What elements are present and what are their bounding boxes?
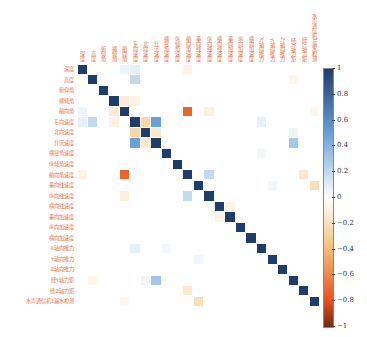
- colorbar-tick: [332, 68, 335, 69]
- column-label: X轴向推力: [256, 37, 267, 61]
- colorbar-tick: [332, 300, 335, 301]
- heatmap-cell: [120, 96, 129, 105]
- heatmap-cell: [225, 212, 234, 221]
- row-label: 横摇角速度: [49, 148, 74, 159]
- heatmap-cell: [120, 107, 129, 116]
- heatmap-cell: [246, 233, 255, 242]
- heatmap-cell: [236, 223, 245, 232]
- heatmap-cell: [120, 191, 129, 200]
- column-label: 俯仰角: [98, 46, 109, 61]
- column-label: 艏向角速度: [183, 36, 194, 61]
- colorbar: [323, 68, 334, 328]
- heatmap-cell: [289, 75, 298, 84]
- column-label: Y轴向推力: [267, 38, 278, 61]
- column-label: 横向加速度: [246, 36, 257, 61]
- heatmap-cell: [278, 265, 287, 274]
- heatmap-cell: [151, 128, 160, 137]
- column-label: 横倾角: [109, 46, 120, 61]
- colorbar-tick: [332, 197, 335, 198]
- row-label: 艏向角: [59, 106, 74, 117]
- row-label: 北向速度: [54, 127, 74, 138]
- column-label: 高度: [88, 51, 99, 61]
- row-label: 东向速度: [54, 117, 74, 128]
- heatmap-cell: [268, 181, 277, 190]
- heatmap-cell: [173, 160, 182, 169]
- colorbar-tick-label: 0.6: [337, 116, 348, 124]
- heatmap-cell: [130, 75, 139, 84]
- colorbar-tick-label: 1: [337, 64, 341, 72]
- heatmap-cell: [141, 117, 150, 126]
- column-label: 纵向加速度: [235, 36, 246, 61]
- column-label: 垂向线速度: [193, 36, 204, 61]
- heatmap-cell: [204, 107, 213, 116]
- row-label: 横倾角: [59, 96, 74, 107]
- heatmap-cell: [268, 255, 277, 264]
- heatmap-cell: [257, 117, 266, 126]
- heatmap-cell: [183, 107, 192, 116]
- column-label: 垂向加速度: [225, 36, 236, 61]
- colorbar-tick: [332, 326, 335, 327]
- heatmap-cell: [151, 117, 160, 126]
- heatmap-cell: [215, 212, 224, 221]
- column-label: 纵向线速度: [204, 36, 215, 61]
- row-label: 纵倾角速度: [49, 159, 74, 170]
- column-label: Z轴向推力: [277, 37, 288, 61]
- heatmap-cell: [78, 117, 87, 126]
- heatmap-cell: [183, 286, 192, 295]
- colorbar-tick-label: 0: [337, 193, 341, 201]
- column-label: 横摇角速度: [161, 36, 172, 61]
- row-label: 纵向加速度: [49, 222, 74, 233]
- row-label: 艏向角速度: [49, 170, 74, 181]
- heatmap-cell: [162, 149, 171, 158]
- heatmap-cell: [299, 170, 308, 179]
- row-label: 垂向加速度: [49, 212, 74, 223]
- heatmap-cell: [204, 191, 213, 200]
- heatmap-cell: [120, 170, 129, 179]
- heatmap-cell: [194, 297, 203, 306]
- heatmap-cell: [109, 117, 118, 126]
- colorbar-tick-label: −1: [337, 322, 347, 330]
- heatmap-cell: [310, 297, 319, 306]
- heatmap-cell: [88, 75, 97, 84]
- heatmap-cell: [215, 202, 224, 211]
- heatmap-cell: [162, 244, 171, 253]
- colorbar-tick: [332, 120, 335, 121]
- column-label: 东向速度: [130, 41, 141, 61]
- column-label: 深度: [77, 51, 88, 61]
- heatmap-cell: [130, 244, 139, 253]
- colorbar-tick-label: −0.2: [337, 219, 354, 227]
- heatmap-cell: [141, 276, 150, 285]
- column-label: 绕Y轴力矩: [288, 38, 299, 61]
- column-label: 纵倾角速度: [172, 36, 183, 61]
- colorbar-tick: [332, 274, 335, 275]
- colorbar-tick-label: 0.4: [337, 141, 348, 149]
- heatmap-cell: [99, 86, 108, 95]
- colorbar-tick: [332, 94, 335, 95]
- correlation-heatmap: 深度高度俯仰角横倾角艏向角东向速度北向速度升沉速度横摇角速度纵倾角速度艏向角速度…: [0, 0, 367, 337]
- heatmap-cell: [289, 128, 298, 137]
- heatmap-cell: [204, 170, 213, 179]
- heatmap-cell: [289, 276, 298, 285]
- row-label: 垂向线速度: [49, 180, 74, 191]
- heatmap-cell: [225, 202, 234, 211]
- row-label: 俯仰角: [59, 85, 74, 96]
- row-label: 绕Z轴力矩: [50, 286, 74, 297]
- column-label: 横向线速度: [214, 36, 225, 61]
- heatmap-cell: [88, 276, 97, 285]
- row-label: 深度: [64, 64, 74, 75]
- heatmap-cell: [78, 65, 87, 74]
- row-label: 升沉速度: [54, 138, 74, 149]
- row-label: Y轴向推力: [51, 254, 74, 265]
- column-label: 水声通信机1漏水检测: [309, 13, 320, 61]
- colorbar-tick-label: −0.8: [337, 296, 354, 304]
- heatmap-cell: [130, 138, 139, 147]
- colorbar-tick: [332, 171, 335, 172]
- column-label: 升沉速度: [151, 41, 162, 61]
- colorbar-tick: [332, 145, 335, 146]
- heatmap-cell: [257, 244, 266, 253]
- heatmap-cell: [88, 117, 97, 126]
- row-label: Z轴向推力: [50, 264, 74, 275]
- heatmap-cell: [151, 276, 160, 285]
- heatmap-cell: [130, 96, 139, 105]
- row-label: X轴向推力: [50, 243, 74, 254]
